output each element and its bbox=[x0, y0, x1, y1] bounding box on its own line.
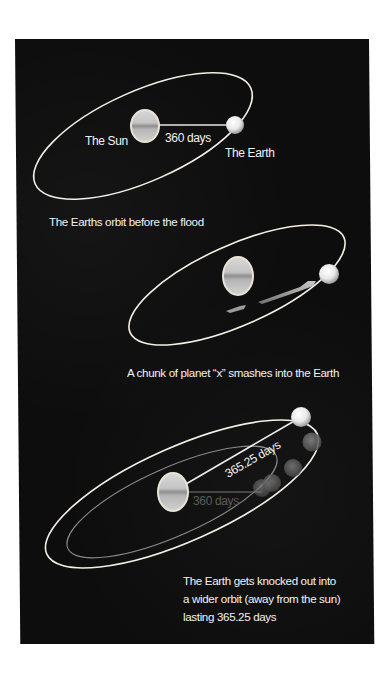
earth-icon bbox=[291, 407, 311, 427]
earth-icon bbox=[319, 264, 339, 284]
new-period-label: 365.25 days bbox=[223, 438, 284, 481]
earth-icon bbox=[226, 116, 244, 134]
caption-before-flood: The Earths orbit before the flood bbox=[49, 215, 204, 228]
old-period-label: 360 days bbox=[193, 494, 239, 508]
earth-ghost-icon bbox=[263, 474, 281, 492]
scene-before-flood: The Sun 360 days The Earth The Earths or… bbox=[17, 47, 275, 228]
orbit-diagram: The Sun 360 days The Earth The Earths or… bbox=[0, 0, 385, 673]
planet-x-debris-large-icon bbox=[258, 281, 316, 304]
new-distance-line bbox=[186, 420, 296, 484]
caption-impact: A chunk of planet “x” smashes into the E… bbox=[127, 366, 339, 379]
period-label: 360 days bbox=[165, 131, 211, 145]
earth-ghost-icon bbox=[303, 433, 322, 452]
sun-icon bbox=[158, 473, 188, 511]
caption-after-line-2: a wider orbit (away from the sun) bbox=[183, 592, 341, 605]
caption-after-line-1: The Earth gets knocked out into bbox=[183, 574, 336, 587]
planet-x-debris-small-icon bbox=[226, 305, 246, 313]
sun-icon bbox=[131, 110, 159, 142]
sun-icon bbox=[223, 257, 253, 295]
sun-label: The Sun bbox=[85, 134, 128, 148]
caption-after-line-3: lasting 365.25 days bbox=[183, 610, 277, 623]
scene-after-impact: 365.25 days 360 days The Earth gets knoc… bbox=[28, 391, 341, 623]
earth-ghost-icon bbox=[284, 459, 302, 477]
earth-label: The Earth bbox=[225, 146, 275, 160]
